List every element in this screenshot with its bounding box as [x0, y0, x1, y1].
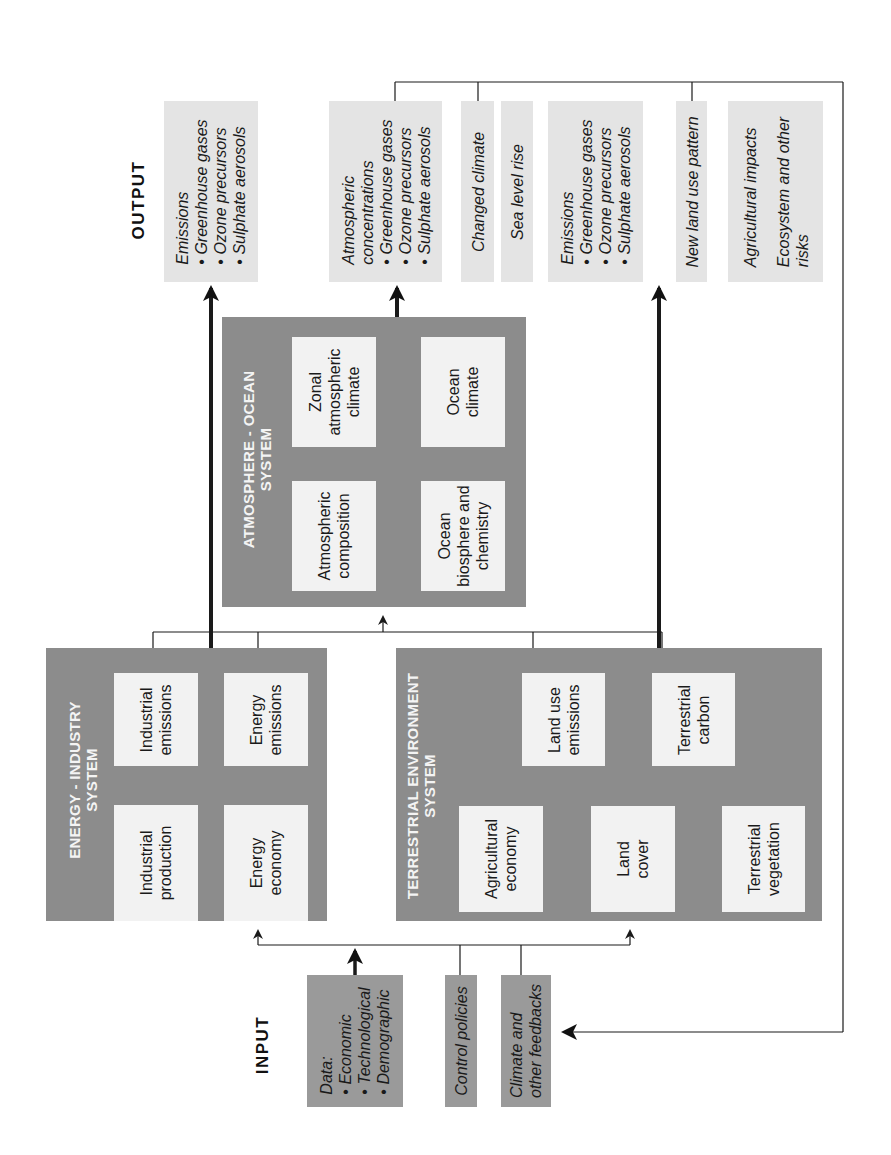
atmospheric-composition-box: Atmospheric composition [292, 481, 376, 591]
terrestrial-title: TERRESTRIAL ENVIRONMENT SYSTEM [404, 656, 438, 916]
data-item-economic: Economic [336, 987, 355, 1094]
input-label: INPUT [248, 1015, 278, 1075]
output-changed-climate-box: Changed climate [461, 101, 494, 282]
output-concentrations-box: Atmospheric concentrations Greenhouse ga… [329, 101, 442, 282]
output-sea-level-rise-box: Sea level rise [501, 101, 533, 282]
input-data-box: Data: Economic Technological Demographic [307, 975, 403, 1107]
ocean-biosphere-chemistry-box: Ocean biosphere and chemistry [421, 481, 505, 591]
land-use-emissions-box: Land use emissions [522, 673, 605, 766]
ocean-climate-box: Ocean climate [421, 337, 505, 447]
data-item-demographic: Demographic [374, 987, 393, 1094]
agricultural-economy-box: Agricultural economy [459, 806, 543, 912]
industrial-production-box: Industrial production [114, 805, 198, 921]
terrestrial-vegetation-box: Terrestrial vegetation [722, 806, 805, 912]
output-label: OUTPUT [124, 160, 154, 240]
data-item-technological: Technological [355, 987, 374, 1094]
energy-industry-title: ENERGY - INDUSTRY SYSTEM [66, 680, 100, 880]
data-heading: Data: [317, 987, 336, 1094]
terrestrial-carbon-box: Terrestrial carbon [652, 673, 735, 766]
zonal-atmospheric-climate-box: Zonal atmospheric climate [292, 337, 376, 447]
output-impacts-box: Agricultural impacts Ecosystem and other… [728, 101, 823, 282]
atmosphere-ocean-title: ATMOSPHERE - OCEAN SYSTEM [240, 352, 274, 567]
output-emissions-box-2: Emissions Greenhouse gases Ozone precurs… [548, 101, 643, 282]
input-climate-feedbacks-box: Climate and other feedbacks [501, 975, 551, 1107]
land-cover-box: Land cover [591, 806, 675, 912]
energy-emissions-box: Energy emissions [224, 673, 308, 766]
industrial-emissions-box: Industrial emissions [114, 673, 198, 766]
energy-economy-box: Energy economy [224, 805, 308, 921]
input-control-policies-box: Control policies [445, 975, 477, 1107]
output-emissions-box-1: Emissions Greenhouse gases Ozone precurs… [164, 101, 258, 282]
output-new-land-use-box: New land use pattern [676, 101, 707, 282]
